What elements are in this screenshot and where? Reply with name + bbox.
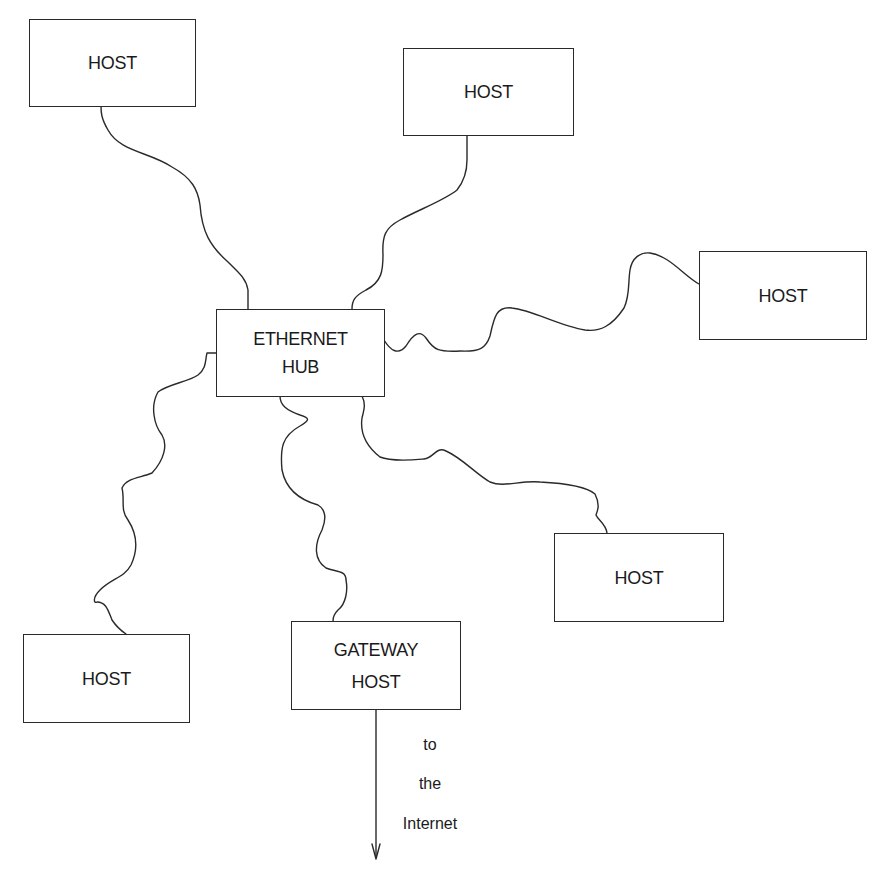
- wire-hub-to-host-bottom-left: [94, 353, 216, 634]
- host-label: HOST: [464, 83, 513, 101]
- gateway-label-line-2: HOST: [352, 673, 401, 691]
- uplink-caption-internet: Internet: [380, 816, 480, 832]
- host-label: HOST: [615, 569, 664, 587]
- wire-hub-to-host-top-right: [352, 135, 467, 309]
- host-right[interactable]: HOST: [699, 251, 867, 340]
- gateway-host[interactable]: GATEWAY HOST: [291, 621, 461, 710]
- host-bottom-left[interactable]: HOST: [23, 634, 190, 723]
- uplink-caption-to: to: [380, 737, 480, 753]
- wire-hub-to-host-top-left: [101, 106, 248, 309]
- host-label: HOST: [82, 670, 131, 688]
- host-bottom-right[interactable]: HOST: [554, 533, 724, 622]
- uplink-caption-the: the: [380, 776, 480, 792]
- wire-hub-to-gateway: [280, 396, 347, 621]
- wire-hub-to-host-right: [384, 253, 699, 351]
- hub-label-line-2: HUB: [282, 358, 319, 376]
- host-label: HOST: [759, 287, 808, 305]
- hub-label-line-1: ETHERNET: [253, 330, 348, 348]
- wire-hub-to-host-bottom-right: [362, 396, 607, 533]
- host-label: HOST: [88, 54, 137, 72]
- gateway-label-line-1: GATEWAY: [334, 641, 419, 659]
- host-top-right[interactable]: HOST: [403, 48, 574, 136]
- ethernet-hub[interactable]: ETHERNET HUB: [216, 309, 385, 397]
- host-top-left[interactable]: HOST: [29, 19, 196, 107]
